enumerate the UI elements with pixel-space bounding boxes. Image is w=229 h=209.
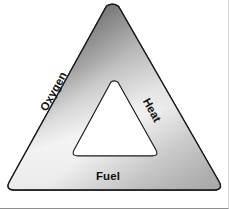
figure-canvas: Oxygen Heat Fuel: [0, 0, 229, 209]
label-fuel: Fuel: [96, 170, 120, 182]
